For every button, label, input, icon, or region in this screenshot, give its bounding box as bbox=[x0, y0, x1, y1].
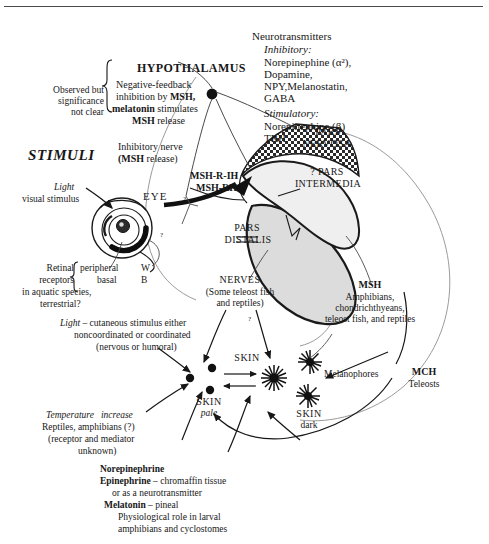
feedback-line-4: MSH release bbox=[132, 115, 185, 126]
receptor-peripheral-name: peripheral bbox=[80, 263, 119, 274]
pars-distalis-line-2: DISTALIS bbox=[220, 234, 276, 245]
skin-dark-line-2: dark bbox=[286, 420, 332, 431]
inhibitory-line-3: NPY,Melanostatin, bbox=[264, 80, 348, 92]
neurotransmitters-heading: Neurotransmitters bbox=[252, 30, 331, 42]
feedback-line-2: inhibition by MSH, bbox=[116, 91, 195, 102]
receptor-peripheral-code: W bbox=[141, 263, 150, 274]
observed-note-line-2: significance bbox=[26, 96, 104, 107]
hypothalamus-label: HYPOTHALAMUS bbox=[137, 62, 246, 75]
mch-line: Teleosts bbox=[398, 379, 450, 390]
cutaneous-line-1-post: – cutaneous stimulus either bbox=[80, 318, 186, 328]
footnote-line-3: or as a neurotransmitter bbox=[112, 488, 202, 499]
melanophore-equilibrium-arrows bbox=[224, 374, 256, 386]
footnote-epinephrine-line: Epinephrine – chromaffin tissue bbox=[100, 476, 226, 487]
msh-rh-label: MSH-RH bbox=[196, 182, 237, 193]
inhibitory-nerve-bold: (MSH bbox=[118, 153, 144, 164]
eye-question-mark: ? bbox=[160, 232, 163, 240]
inhibitory-line-1: Norepinephine (α²), bbox=[264, 56, 351, 68]
figure-page: Neurotransmitters Inhibitory: Norepineph… bbox=[0, 0, 489, 544]
feedback-line-2-pre: inhibition by bbox=[116, 91, 170, 102]
aquatic-species-line-1: in aquatic species, bbox=[22, 287, 91, 298]
receptor-basal-code: B bbox=[141, 275, 147, 286]
skin-pale-line-2: pale bbox=[188, 408, 230, 419]
cutaneous-light-italic: Light bbox=[60, 318, 80, 328]
nerves-question-mark: ? bbox=[248, 316, 251, 324]
pars-intermedia-line-2: INTERMEDIA bbox=[282, 178, 374, 189]
inhibitory-nerve-line-2: (MSH release) bbox=[118, 153, 178, 164]
msh-targets-line-1: Amphibians, bbox=[318, 292, 422, 303]
inhibitory-nerve-post: release) bbox=[144, 153, 178, 164]
msh-targets-line-3: teleost fish, and reptiles bbox=[302, 314, 438, 325]
footnote-epinephrine-post: – chromaffin tissue bbox=[151, 476, 227, 486]
stimulatory-line-2: TRH bbox=[264, 132, 286, 144]
pars-nervosa-line-2: NERVOSA bbox=[292, 138, 362, 149]
msh-r-ih-question: ? bbox=[234, 174, 237, 182]
nerve-branch-question: ? bbox=[183, 196, 186, 204]
feedback-line-2-bold: MSH, bbox=[170, 91, 195, 102]
pars-distalis-line-1: PARS bbox=[224, 222, 270, 233]
melanophores-dark bbox=[261, 350, 322, 408]
cutaneous-line-1: Light – cutaneous stimulus either bbox=[60, 318, 186, 329]
cutaneous-line-2: noncoordinated or coordinated bbox=[74, 330, 191, 341]
skin-dark-line-1: SKIN bbox=[286, 408, 332, 419]
inhibitory-nerve-line-1: Inhibitory nerve bbox=[118, 141, 183, 152]
observed-note-line-3: not clear bbox=[26, 107, 104, 118]
skin-top-label: SKIN bbox=[224, 352, 270, 363]
footnote-line-6: amphibians and cyclostomes bbox=[118, 524, 227, 535]
temperature-line-2: Reptiles, amphibians (?) bbox=[42, 422, 135, 433]
feedback-line-3-bold: melatonin bbox=[112, 103, 155, 114]
eye-label: EYE bbox=[143, 190, 167, 202]
visual-stimulus-label: visual stimulus bbox=[22, 194, 79, 205]
temperature-line-4: unknown) bbox=[78, 446, 117, 457]
nerves-heading: NERVES bbox=[202, 274, 278, 285]
retinal-label-line-1: Retinal bbox=[14, 263, 74, 274]
feedback-line-3: melatonin stimulates bbox=[112, 103, 198, 114]
observed-note-line-1: Observed but bbox=[26, 85, 104, 96]
skin-pale-line-1: SKIN bbox=[186, 396, 232, 407]
melanophores-pale bbox=[186, 364, 216, 394]
cutaneous-line-3: (nervous or humoral) bbox=[96, 342, 177, 353]
aquatic-species-line-2: terrestrial? bbox=[40, 299, 81, 310]
receptor-basal-name: basal bbox=[97, 275, 117, 286]
msh-r-ih-label: MSH-R-IH bbox=[190, 170, 238, 181]
stimulatory-label: Stimulatory: bbox=[264, 107, 319, 119]
inhibitory-line-4: GABA bbox=[264, 92, 295, 104]
inhibitory-line-2: Dopamine, bbox=[264, 68, 313, 80]
temperature-line-3: (receptor and mediator bbox=[48, 434, 135, 445]
feedback-line-3-post: stimulates bbox=[155, 103, 198, 114]
melanophores-label: Melanophores bbox=[324, 369, 378, 380]
light-visual-italic: Light bbox=[36, 182, 92, 193]
mch-heading: MCH bbox=[400, 366, 448, 377]
footnote-melatonin-bold: Melatonin bbox=[104, 500, 146, 510]
footnote-epinephrine-bold: Epinephrine bbox=[100, 476, 151, 486]
temperature-italic-line: Temperature increase bbox=[46, 410, 133, 421]
stimuli-heading: STIMULI bbox=[28, 147, 95, 164]
footnote-melatonin-line: Melatonin – pineal bbox=[104, 500, 178, 511]
feedback-line-4-post: release bbox=[155, 115, 185, 126]
pars-intermedia-line-1: ? PARS bbox=[292, 166, 362, 177]
eye-diagram bbox=[92, 198, 154, 272]
msh-targets-heading: MSH bbox=[332, 279, 408, 290]
feedback-line-4-bold: MSH bbox=[132, 115, 155, 126]
footnote-melatonin-post: – pineal bbox=[146, 500, 179, 510]
nerves-line-1: (Some teleost fish bbox=[186, 287, 294, 298]
footnote-line-5: Physiological role in larval bbox=[118, 512, 221, 523]
nerves-line-2: and reptiles) bbox=[186, 298, 294, 309]
pars-nervosa-line-1: PARS bbox=[300, 126, 356, 137]
footnote-norepinephrine: Norepinephrine bbox=[100, 464, 164, 475]
inhibitory-label: Inhibitory: bbox=[264, 43, 312, 55]
retinal-label-line-2: receptors bbox=[10, 275, 74, 286]
feedback-line-1: Negative-feedback bbox=[116, 79, 192, 90]
msh-targets-line-2: chondrichthyeans, bbox=[310, 303, 430, 314]
